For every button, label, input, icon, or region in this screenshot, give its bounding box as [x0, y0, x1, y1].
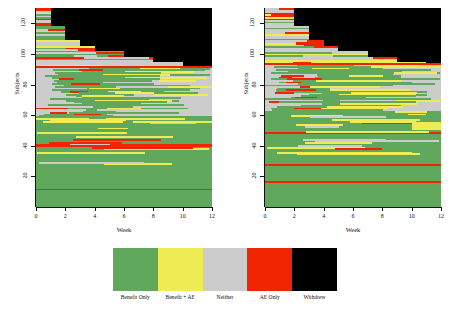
right-x-tick-5: [412, 207, 413, 211]
left-y-tick-2: [31, 115, 35, 116]
legend-swatch-0: [113, 248, 158, 291]
legend-label-strip: Benefit OnlyBenefit + AENeitherAE OnlyWi…: [113, 293, 337, 305]
right-x-axis-title: Week: [265, 226, 441, 233]
legend-label-0: Benefit Only: [113, 293, 158, 305]
left-panel: Week Subjects 02468101220406080100120: [0, 0, 229, 240]
right-y-ticklabel-5: 120: [237, 19, 257, 26]
right-x-ticklabel-6: 12: [431, 213, 451, 220]
left-x-ticklabel-0: 0: [26, 213, 46, 220]
right-panel: Week Subjects 02468101220406080100120: [229, 0, 458, 240]
left-x-axis-title: Week: [36, 226, 212, 233]
left-y-ticklabel-2: 60: [8, 111, 28, 118]
legend-swatch-2: [203, 248, 248, 291]
right-y-ticklabel-1: 40: [237, 142, 257, 149]
left-y-tick-1: [31, 146, 35, 147]
left-x-tick-3: [124, 207, 125, 211]
legend-label-3: AE Only: [247, 293, 292, 305]
right-plot-canvas: [265, 8, 441, 207]
right-y-tick-3: [260, 85, 264, 86]
right-y-tick-0: [260, 176, 264, 177]
right-x-tick-2: [324, 207, 325, 211]
left-x-ticklabel-6: 12: [202, 213, 222, 220]
left-x-tick-5: [183, 207, 184, 211]
left-x-ticklabel-4: 8: [143, 213, 163, 220]
right-y-ticklabel-3: 80: [237, 81, 257, 88]
right-x-ticklabel-3: 6: [343, 213, 363, 220]
right-y-axis-line: [264, 8, 265, 207]
right-x-tick-4: [382, 207, 383, 211]
right-x-tick-6: [441, 207, 442, 211]
left-x-ticklabel-3: 6: [114, 213, 134, 220]
left-x-tick-1: [65, 207, 66, 211]
figure-root: Week Subjects 02468101220406080100120 We…: [0, 0, 458, 317]
left-x-tick-4: [153, 207, 154, 211]
right-plot-area: [265, 8, 441, 207]
left-y-tick-5: [31, 23, 35, 24]
left-plot-canvas: [36, 8, 212, 207]
right-x-tick-1: [294, 207, 295, 211]
right-x-tick-0: [265, 207, 266, 211]
right-y-tick-4: [260, 54, 264, 55]
right-x-ticklabel-5: 10: [402, 213, 422, 220]
right-x-ticklabel-1: 2: [284, 213, 304, 220]
right-y-ticklabel-4: 100: [237, 50, 257, 57]
left-y-tick-3: [31, 85, 35, 86]
legend-swatch-1: [158, 248, 203, 291]
right-x-ticklabel-2: 4: [314, 213, 334, 220]
right-x-ticklabel-0: 0: [255, 213, 275, 220]
left-y-axis-line: [35, 8, 36, 207]
right-y-tick-2: [260, 115, 264, 116]
left-y-ticklabel-1: 40: [8, 142, 28, 149]
left-x-ticklabel-5: 10: [173, 213, 193, 220]
left-x-tick-6: [212, 207, 213, 211]
legend-swatch-strip: [113, 248, 337, 291]
left-x-ticklabel-2: 4: [85, 213, 105, 220]
left-y-tick-4: [31, 54, 35, 55]
left-y-ticklabel-4: 100: [8, 50, 28, 57]
left-y-ticklabel-5: 120: [8, 19, 28, 26]
left-y-tick-0: [31, 176, 35, 177]
left-y-ticklabel-3: 80: [8, 81, 28, 88]
left-plot-area: [36, 8, 212, 207]
right-y-ticklabel-2: 60: [237, 111, 257, 118]
right-x-tick-3: [353, 207, 354, 211]
right-y-tick-5: [260, 23, 264, 24]
left-y-ticklabel-0: 20: [8, 172, 28, 179]
legend-swatch-4: [292, 248, 337, 291]
left-x-tick-0: [36, 207, 37, 211]
left-x-ticklabel-1: 2: [55, 213, 75, 220]
left-x-tick-2: [95, 207, 96, 211]
right-x-ticklabel-4: 8: [372, 213, 392, 220]
legend-swatch-3: [247, 248, 292, 291]
legend: Benefit OnlyBenefit + AENeitherAE OnlyWi…: [0, 243, 458, 317]
legend-label-4: Withdrew: [292, 293, 337, 305]
right-y-ticklabel-0: 20: [237, 172, 257, 179]
legend-label-1: Benefit + AE: [158, 293, 203, 305]
right-y-tick-1: [260, 146, 264, 147]
legend-label-2: Neither: [203, 293, 248, 305]
